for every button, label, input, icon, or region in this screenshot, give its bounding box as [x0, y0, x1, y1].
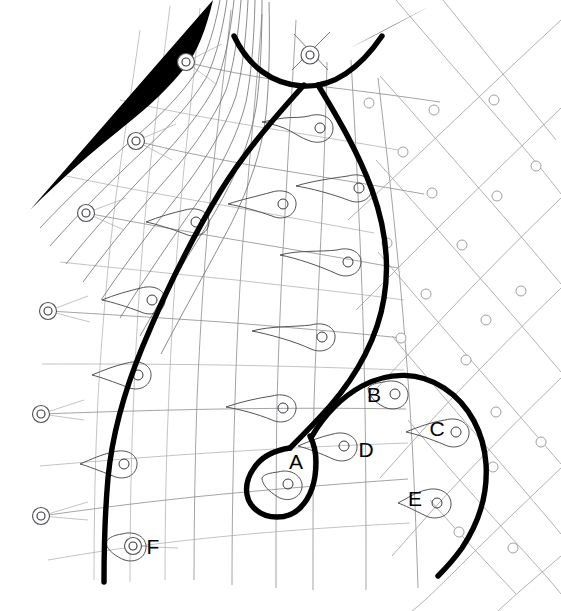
ring-marker-top — [301, 46, 319, 64]
ring-marker-f — [125, 538, 142, 555]
ring-marker-left-2 — [33, 406, 50, 423]
ring-marker-upper-left-2 — [128, 133, 145, 150]
ring-marker-left-3 — [33, 508, 50, 525]
label-e: E — [408, 487, 422, 510]
label-f: F — [147, 535, 160, 558]
diagram-canvas: A B C D E F — [0, 0, 561, 611]
label-a: A — [289, 450, 303, 473]
ring-marker-left-1 — [40, 303, 57, 320]
ring-marker-upper-left-3 — [78, 205, 95, 222]
figure-svg: A B C D E F — [0, 0, 561, 611]
label-d: D — [358, 438, 373, 461]
label-b: B — [367, 383, 381, 406]
ring-marker-upper-left-1 — [178, 54, 195, 71]
label-c: C — [429, 417, 444, 440]
